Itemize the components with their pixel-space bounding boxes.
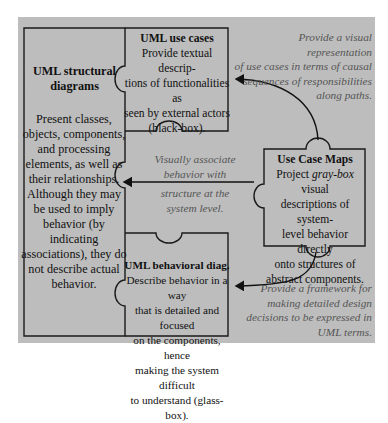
- use-cases-text: UML use cases Provide textual descrip- t…: [124, 31, 230, 136]
- structural-body: Present classes, objects, components, an…: [20, 112, 128, 292]
- structural-title-line: UML structural: [26, 64, 123, 79]
- structural-title-line: diagrams: [26, 79, 123, 94]
- body-line: behavior (by: [20, 217, 128, 232]
- body-line: descriptions of system-: [264, 197, 366, 227]
- note-line: behavior with: [140, 167, 250, 182]
- behavioral-text: UML behavioral diag. Describe behavior i…: [124, 258, 230, 423]
- text: Project: [276, 168, 312, 181]
- note-line: sequences of responsibilities: [232, 74, 372, 89]
- body-line: (black-box).: [124, 121, 230, 136]
- gray-box-emphasis: gray-box: [312, 168, 354, 181]
- note-top: Provide a visual representation of use c…: [232, 30, 372, 103]
- body-line: behavior.: [20, 277, 128, 292]
- body-line: on the components, hence: [124, 333, 230, 363]
- note-line: of use cases in terms of causal: [232, 59, 372, 74]
- note-line: along paths.: [232, 88, 372, 103]
- body-line: objects, components,: [20, 127, 128, 142]
- note-line: making detailed design: [232, 296, 372, 311]
- body-line: onto structures of: [264, 257, 366, 272]
- note-line: system level.: [140, 201, 250, 216]
- ucm-text: Use Case Maps Project gray-box visual de…: [264, 152, 366, 287]
- body-line: their relationships.: [20, 172, 128, 187]
- body-line: not describe actual: [20, 262, 128, 277]
- body-line: elements, as well as: [20, 157, 128, 172]
- body-line: level behavior directly: [264, 227, 366, 257]
- note-line: Provide a framework for: [232, 281, 372, 296]
- note-line: Provide a visual representation: [232, 30, 372, 59]
- behavioral-title: UML behavioral diag.: [124, 258, 230, 273]
- ucm-title: Use Case Maps: [264, 152, 366, 167]
- note-line: decisions to be expressed in: [232, 310, 372, 325]
- body-line: Present classes,: [20, 112, 128, 127]
- ucm-line-1: Project gray-box visual: [264, 167, 366, 197]
- note-line: Visually associate: [140, 152, 250, 167]
- structural-title: UML structural diagrams: [26, 64, 123, 94]
- body-line: indicating: [20, 232, 128, 247]
- body-line: associations), they do: [20, 247, 128, 262]
- body-line: seen by external actors: [124, 106, 230, 121]
- body-line: making the system difficult: [124, 363, 230, 393]
- note-bottom: Provide a framework for making detailed …: [232, 281, 372, 339]
- note-middle: Visually associate behavior with structu…: [140, 152, 250, 215]
- body-line: and processing: [20, 142, 128, 157]
- body-line: that is detailed and focused: [124, 303, 230, 333]
- body-line: be used to imply: [20, 202, 128, 217]
- text: visual: [301, 183, 329, 196]
- body-line: Describe behavior in a way: [124, 273, 230, 303]
- use-cases-title: UML use cases: [124, 31, 230, 46]
- body-line: Provide textual descrip-: [124, 46, 230, 76]
- body-line: to understand (glass-box).: [124, 393, 230, 423]
- note-line: UML terms.: [232, 325, 372, 340]
- note-line: structure at the: [140, 186, 250, 201]
- body-line: Although they may: [20, 187, 128, 202]
- body-line: tions of functionalities as: [124, 76, 230, 106]
